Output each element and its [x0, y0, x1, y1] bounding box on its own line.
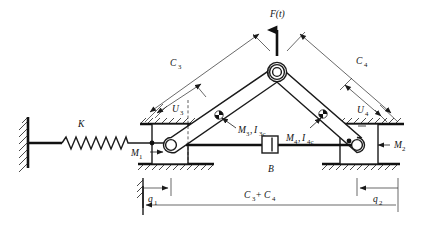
span-c4-sub: 4 [272, 195, 276, 202]
span-c4-base: C [264, 190, 271, 200]
lower-right-rail [322, 164, 400, 170]
u4-sub: 4 [365, 110, 369, 117]
leader-link3 [222, 118, 236, 128]
fixed-wall [19, 117, 28, 172]
q1-sub: 1 [154, 199, 157, 206]
u4-base: U [357, 105, 365, 115]
lower-left-rail [138, 164, 214, 170]
link-c3-lower-pin-bore [166, 140, 177, 151]
m4-comma: , [298, 133, 300, 143]
dimension-q2-label: q 2 [373, 194, 383, 206]
span-plus: + [256, 190, 261, 200]
right-slider-mass-label: M 2 [393, 140, 406, 152]
c4-base: C [356, 56, 363, 66]
link3-mass-inertia-label: M 3 , I 3c [237, 125, 265, 137]
q1-base: q [148, 194, 153, 204]
left-slider-mass-label: M 1 [130, 148, 142, 160]
u3-sub: 3 [180, 109, 184, 116]
spring-constant-label: K [77, 119, 85, 129]
link-c4-attach-dot [347, 139, 352, 144]
dimension-total-span-label: C 3 + C 4 [244, 190, 276, 202]
link-c4-lower-pin-bore [352, 140, 363, 151]
i4c-base: I [301, 133, 306, 143]
mechanism-diagram: F(t) K M 1 M 2 M 3 , I 3c M 4 , I 4c B C… [0, 0, 444, 229]
q2-sub: 2 [379, 199, 383, 206]
q2-base: q [373, 194, 378, 204]
c3-base: C [170, 58, 177, 68]
apex-pin-joint [267, 62, 286, 81]
applied-force-label: F(t) [269, 9, 285, 20]
dimension-u4 [340, 78, 387, 122]
c3-sub: 3 [178, 63, 182, 70]
left-slider-attach-point [150, 141, 155, 146]
m2-sub: 2 [402, 145, 406, 152]
center-of-mass-marker-link3 [215, 111, 223, 119]
dimension-c4 [287, 32, 398, 122]
u3-base: U [172, 104, 180, 114]
i3c-base: I [253, 125, 258, 135]
dimension-q1-label: q 1 [148, 194, 157, 206]
dimension-u4-label: U 4 [357, 105, 369, 117]
damper-label: B [268, 164, 274, 174]
m3-comma: , [250, 125, 252, 135]
center-of-mass-marker-link4 [319, 110, 327, 118]
mechanism-svg-canvas: F(t) K M 1 M 2 M 3 , I 3c M 4 , I 4c B C… [0, 0, 444, 229]
i4c-sub: 4c [307, 138, 313, 145]
dimension-c3-label: C 3 [170, 58, 182, 70]
i3c-sub: 3c [259, 130, 265, 137]
m1-sub: 1 [139, 153, 142, 160]
span-c3-base: C [244, 190, 251, 200]
q1-datum-wall [137, 178, 143, 208]
link4-mass-inertia-label: M 4 , I 4c [285, 133, 313, 145]
dimension-u3-label: U 3 [172, 104, 184, 116]
coil-spring [28, 137, 136, 149]
dimension-c4-label: C 4 [356, 56, 368, 68]
c4-sub: 4 [364, 61, 368, 68]
leader-link4 [310, 118, 321, 128]
viscous-damper [186, 136, 352, 153]
